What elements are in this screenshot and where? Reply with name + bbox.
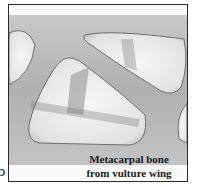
panel-label: b bbox=[0, 164, 5, 179]
caption-line-2: from vulture wing bbox=[49, 167, 188, 180]
caption-line-1: Metacarpal bone bbox=[49, 153, 188, 166]
illustration-frame: Metacarpal bone from vulture wing bbox=[8, 4, 188, 182]
